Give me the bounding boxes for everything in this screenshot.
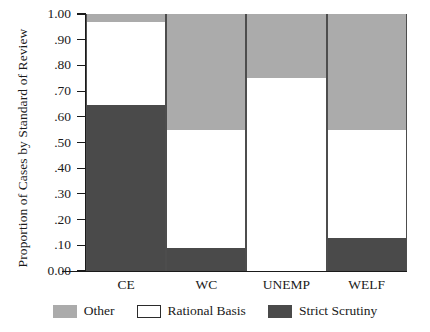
legend-item-strict: Strict Scrutiny: [268, 303, 377, 319]
legend-item-rational: Rational Basis: [137, 303, 246, 319]
bar-segment-other: [87, 14, 165, 22]
y-axis-tick-label: .80: [7, 58, 71, 72]
y-axis-tick: [77, 65, 85, 66]
legend-swatch-rational-icon: [137, 305, 161, 318]
y-axis-tick-label: .60: [7, 110, 71, 124]
bar-segment-other: [167, 14, 245, 130]
y-axis-tick-label: .10: [7, 238, 71, 252]
bar-wc: [166, 14, 246, 271]
x-axis-label-ce: CE: [86, 277, 166, 293]
x-axis-label-unemp: UNEMP: [246, 277, 326, 293]
chart-legend: OtherRational BasisStrict Scrutiny: [0, 303, 430, 319]
bar-segment-other: [328, 14, 406, 130]
legend-label: Strict Scrutiny: [299, 303, 377, 319]
y-axis-tick: [77, 245, 85, 246]
y-axis-tick: [77, 142, 85, 143]
bar-segment-other: [247, 14, 325, 78]
x-axis-label-wc: WC: [166, 277, 246, 293]
bar-segment-rational: [328, 130, 406, 238]
plot-area: [86, 14, 407, 271]
y-axis-tick: [77, 116, 85, 117]
bar-segment-strict: [328, 238, 406, 271]
y-axis-tick: [77, 91, 85, 92]
y-axis-tick-label: 1.00: [7, 7, 71, 21]
bar-segment-strict: [167, 248, 245, 271]
legend-label: Other: [84, 303, 115, 319]
bar-segment-rational: [247, 78, 325, 271]
y-axis-tick: [77, 193, 85, 194]
y-axis-tick: [77, 39, 85, 40]
legend-item-other: Other: [53, 303, 115, 319]
bar-welf: [327, 14, 407, 271]
stacked-bar-chart: Proportion of Cases by Standard of Revie…: [0, 0, 430, 332]
bar-segment-strict: [87, 105, 165, 271]
legend-swatch-other-icon: [53, 305, 77, 318]
legend-swatch-strict-icon: [268, 305, 292, 318]
y-axis-tick: [77, 219, 85, 220]
y-axis-tick-label: .90: [7, 33, 71, 47]
y-axis-tick-label: .30: [7, 187, 71, 201]
y-axis-tick-label: .50: [7, 136, 71, 150]
x-axis-line: [62, 271, 407, 272]
y-axis-tick: [77, 270, 85, 271]
y-axis-tick-label: .70: [7, 84, 71, 98]
bar-ce: [86, 14, 166, 271]
y-axis-tick-label: 0.00: [7, 264, 71, 278]
bar-segment-rational: [87, 22, 165, 106]
bar-segment-rational: [167, 130, 245, 248]
y-axis-tick-label: .20: [7, 213, 71, 227]
y-axis-tick: [77, 168, 85, 169]
bar-unemp: [246, 14, 326, 271]
y-axis-tick-label: .40: [7, 161, 71, 175]
x-axis-label-welf: WELF: [327, 277, 407, 293]
legend-label: Rational Basis: [168, 303, 246, 319]
y-axis-tick: [77, 13, 85, 14]
